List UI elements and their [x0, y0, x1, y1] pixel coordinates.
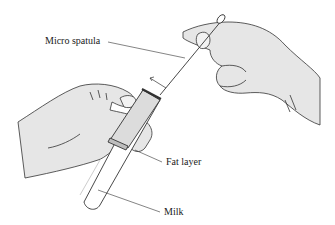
illustration	[0, 0, 335, 225]
leader-micro-spatula	[108, 42, 185, 58]
leader-fat-layer	[135, 150, 162, 162]
label-milk: Milk	[164, 207, 183, 217]
right-hand	[183, 22, 320, 125]
leader-milk	[98, 190, 160, 212]
motion-arrow-icon	[150, 77, 166, 88]
label-micro-spatula: Micro spatula	[45, 36, 100, 46]
label-fat-layer: Fat layer	[166, 157, 201, 167]
diagram-canvas: Micro spatula Fat layer Milk	[0, 0, 335, 225]
